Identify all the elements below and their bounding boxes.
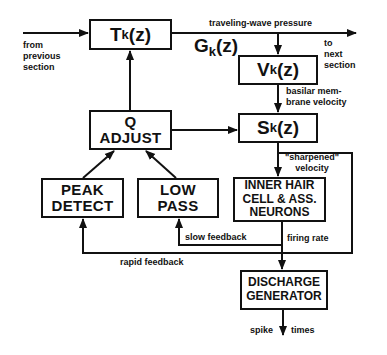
rapid-feedback-label: rapid feedback <box>120 257 184 268</box>
inner-hair-cell-block: INNER HAIR CELL & ASS. NEURONS <box>233 177 326 222</box>
times-label: times <box>291 325 315 336</box>
discharge-generator-block: DISCHARGE GENERATOR <box>240 270 328 310</box>
lowpass-to-q-arrow <box>146 151 176 178</box>
spike-label: spike <box>250 325 273 336</box>
to-next-label: to next section <box>324 38 356 70</box>
tk-block: Tk(z) <box>89 19 172 50</box>
traveling-wave-label: traveling-wave pressure <box>209 18 312 29</box>
peak-to-q-arrow <box>83 151 114 178</box>
peak-detect-block: PEAK DETECT <box>41 178 124 218</box>
gk-label: Gk(z) <box>194 35 238 59</box>
slow-feedback-label: slow feedback <box>185 232 247 243</box>
low-pass-block: LOW PASS <box>137 178 219 218</box>
sharpened-label: "sharpened" velocity <box>285 152 339 174</box>
sk-block: Sk(z) <box>238 113 318 143</box>
q-adjust-block: Q ADJUST <box>89 110 172 150</box>
firing-rate-label: firing rate <box>287 233 329 244</box>
vk-block: Vk(z) <box>238 55 318 85</box>
basilar-label: basilar mem- brane velocity <box>286 86 347 108</box>
from-previous-label: from previous section <box>23 40 61 72</box>
